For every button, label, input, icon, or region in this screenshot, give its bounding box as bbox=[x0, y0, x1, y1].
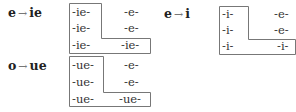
label-from: e bbox=[164, 6, 172, 21]
cell: -i- bbox=[277, 39, 288, 53]
cell: -e- bbox=[124, 75, 139, 89]
label-to: i bbox=[185, 6, 190, 21]
l-shaped-boxes bbox=[0, 0, 296, 112]
label-from: o bbox=[8, 58, 16, 73]
cell: -ue- bbox=[72, 58, 94, 72]
label-to: ie bbox=[29, 5, 42, 20]
cell: -i- bbox=[222, 7, 233, 21]
label-to: ue bbox=[30, 58, 47, 73]
cell: -ue- bbox=[72, 75, 94, 89]
rule-label-e-ie: e→ie bbox=[8, 5, 42, 20]
cell: -e- bbox=[274, 23, 289, 37]
cell: -e- bbox=[274, 7, 289, 21]
rule-label-e-i: e→i bbox=[164, 6, 190, 21]
cell: -ue- bbox=[119, 92, 141, 106]
cell: -ie- bbox=[72, 5, 90, 19]
cell: -ie- bbox=[72, 38, 90, 52]
cell: -e- bbox=[124, 5, 139, 19]
cell: -e- bbox=[124, 21, 139, 35]
arrow-icon: → bbox=[174, 8, 183, 21]
cell: -i- bbox=[222, 39, 233, 53]
arrow-icon: → bbox=[18, 7, 27, 20]
arrow-icon: → bbox=[18, 60, 27, 73]
cell: -i- bbox=[222, 23, 233, 37]
cell: -e- bbox=[124, 58, 139, 72]
cell: -ue- bbox=[72, 92, 94, 106]
label-from: e bbox=[8, 5, 16, 20]
rule-label-o-ue: o→ue bbox=[8, 58, 47, 73]
cell: -ie- bbox=[72, 21, 90, 35]
cell: -ie- bbox=[121, 38, 139, 52]
